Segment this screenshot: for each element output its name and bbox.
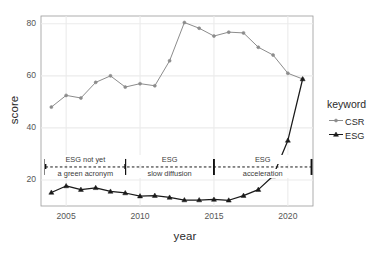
legend-title: keyword bbox=[327, 98, 366, 110]
y-tick-label: 20 bbox=[14, 174, 36, 184]
y-tick-label: 60 bbox=[14, 70, 36, 80]
y-tick-label: 80 bbox=[14, 18, 36, 28]
x-tick-label: 2010 bbox=[123, 211, 157, 221]
y-tick-label: 40 bbox=[14, 122, 36, 132]
legend-label-esg: ESG bbox=[345, 131, 364, 141]
phase-annotation-line: slow diffusion bbox=[130, 169, 210, 178]
phase-annotation-line: ESG bbox=[223, 155, 303, 164]
x-axis-title: year bbox=[130, 230, 240, 242]
phase-annotation-line: ESG bbox=[130, 155, 210, 164]
x-tick-label: 2005 bbox=[49, 211, 83, 221]
x-tick-label: 2020 bbox=[271, 211, 305, 221]
legend-markers bbox=[329, 119, 343, 136]
legend-label-csr: CSR bbox=[345, 117, 364, 127]
phase-annotation-line: ESG not yet bbox=[45, 155, 125, 164]
phase-annotation-line: acceleration bbox=[223, 169, 303, 178]
phase-annotation-line: a green acronym bbox=[45, 169, 125, 178]
x-tick-label: 2015 bbox=[197, 211, 231, 221]
chart-figure: score year keyword CSR ESG 2040608020052… bbox=[0, 0, 383, 254]
